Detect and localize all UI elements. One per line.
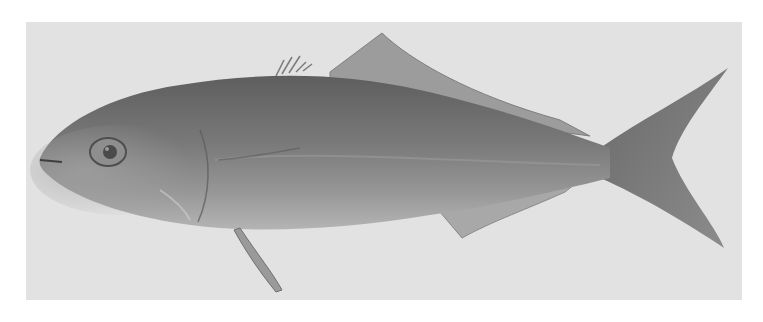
pelvic-fin [234,228,282,292]
eye [90,138,126,166]
head-highlight [30,125,210,215]
illustration-plate [26,22,742,300]
caudal-fin [600,68,728,248]
fish-illustration [0,0,763,322]
first-dorsal-fin [276,56,312,76]
